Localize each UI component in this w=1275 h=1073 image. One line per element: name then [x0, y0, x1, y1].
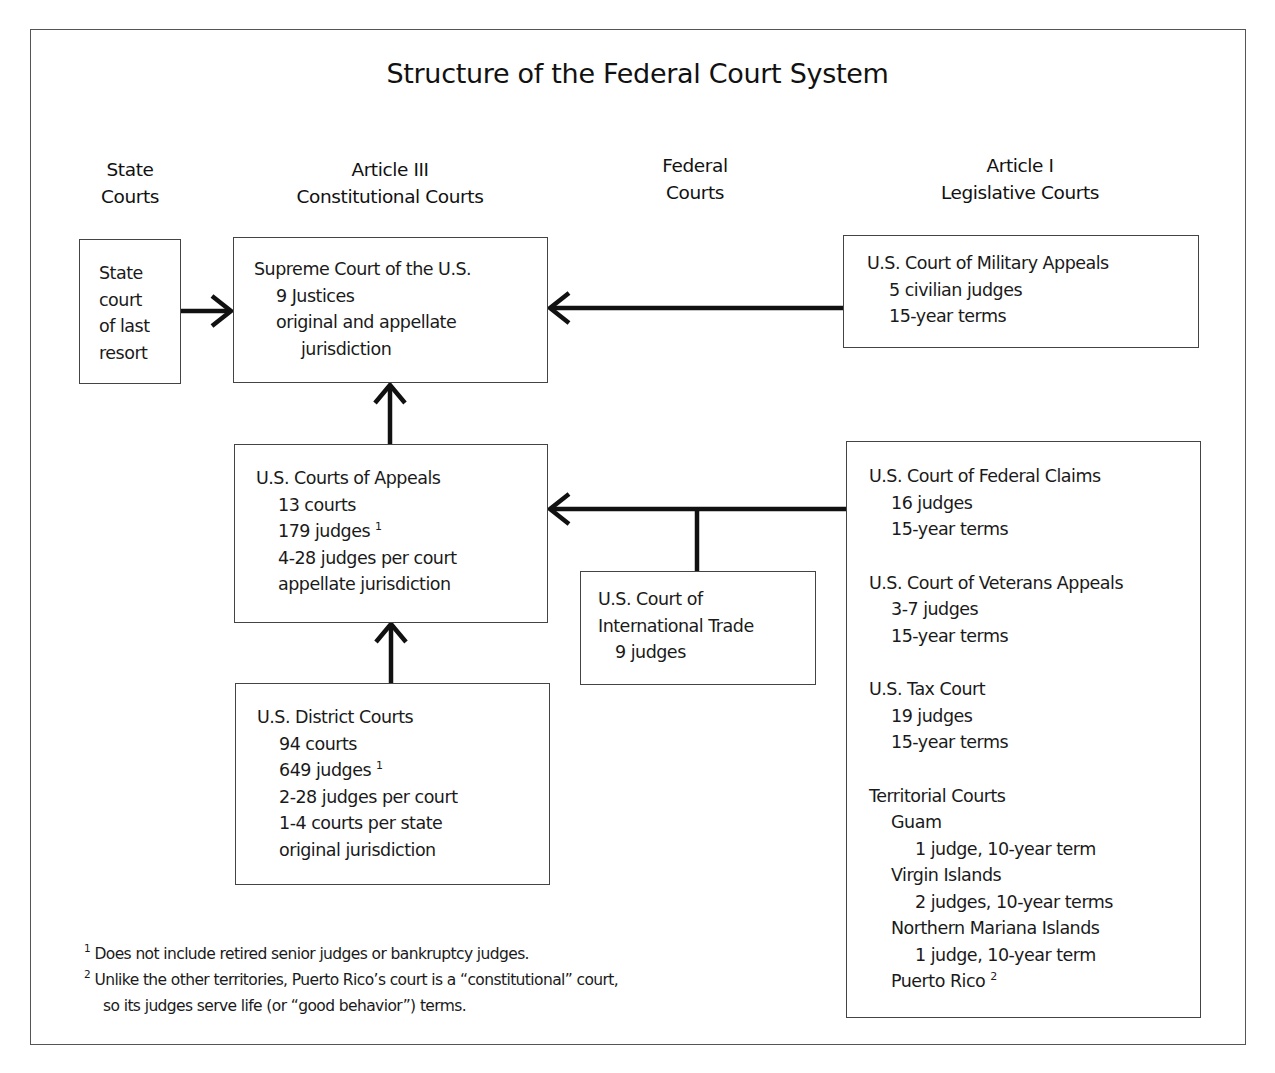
footnote-marker: 1 [84, 942, 90, 954]
court-name: Territorial Courts [869, 783, 1200, 810]
territory-detail: 1 judge, 10-year term [869, 836, 1200, 863]
court-detail: original jurisdiction [257, 837, 549, 864]
box-line: court [99, 287, 180, 314]
veterans-appeals-section: U.S. Court of Veterans Appeals 3-7 judge… [869, 570, 1200, 650]
footnote-2: 2 Unlike the other territories, Puerto R… [84, 967, 618, 993]
footnotes: 1 Does not include retired senior judges… [84, 941, 618, 1019]
federal-claims-section: U.S. Court of Federal Claims 16 judges 1… [869, 463, 1200, 543]
court-detail: 15-year terms [869, 729, 1200, 756]
court-name: U.S. District Courts [257, 704, 549, 731]
international-trade-box: U.S. Court of International Trade 9 judg… [580, 571, 816, 685]
box-line: of last [99, 313, 180, 340]
court-detail: jurisdiction [254, 336, 547, 363]
tax-court-section: U.S. Tax Court 19 judges 15-year terms [869, 676, 1200, 756]
territory-name: Northern Mariana Islands [869, 915, 1200, 942]
court-name: International Trade [598, 613, 815, 640]
judges-count: 179 judges [278, 521, 370, 541]
court-detail: 9 Justices [254, 283, 547, 310]
box-line: resort [99, 340, 180, 367]
territory-label: Puerto Rico [891, 971, 985, 991]
court-detail: 179 judges 1 [256, 518, 547, 545]
territory-name: Guam [869, 809, 1200, 836]
court-detail: 15-year terms [869, 516, 1200, 543]
territory-detail: 1 judge, 10-year term [869, 942, 1200, 969]
court-name: Supreme Court of the U.S. [254, 256, 547, 283]
court-detail: 16 judges [869, 490, 1200, 517]
state-court-box: State court of last resort [79, 239, 181, 384]
court-detail: 13 courts [256, 492, 547, 519]
court-detail: 649 judges 1 [257, 757, 549, 784]
footnote-text-continued: so its judges serve life (or “good behav… [84, 993, 618, 1019]
court-detail: appellate jurisdiction [256, 571, 547, 598]
judges-count: 649 judges [279, 760, 371, 780]
military-appeals-box: U.S. Court of Military Appeals 5 civilia… [843, 235, 1199, 348]
box-line: State [99, 260, 180, 287]
legislative-courts-box: U.S. Court of Federal Claims 16 judges 1… [846, 441, 1201, 1018]
territory-name: Puerto Rico 2 [869, 968, 1200, 995]
court-name: U.S. Court of Military Appeals [867, 250, 1198, 277]
court-detail: 1-4 courts per state [257, 810, 549, 837]
court-name: U.S. Courts of Appeals [256, 465, 547, 492]
district-courts-box: U.S. District Courts 94 courts 649 judge… [235, 683, 550, 885]
court-detail: 94 courts [257, 731, 549, 758]
courts-of-appeals-box: U.S. Courts of Appeals 13 courts 179 jud… [234, 444, 548, 623]
footnote-marker: 2 [990, 970, 997, 983]
court-name: U.S. Court of [598, 586, 815, 613]
footnote-marker: 2 [84, 968, 90, 980]
court-detail: 9 judges [598, 639, 815, 666]
spacer [869, 649, 1200, 676]
spacer [869, 756, 1200, 783]
court-detail: original and appellate [254, 309, 547, 336]
court-detail: 15-year terms [867, 303, 1198, 330]
court-name: U.S. Court of Veterans Appeals [869, 570, 1200, 597]
footnote-text: Unlike the other territories, Puerto Ric… [94, 971, 618, 989]
court-name: U.S. Court of Federal Claims [869, 463, 1200, 490]
court-name: U.S. Tax Court [869, 676, 1200, 703]
territory-detail: 2 judges, 10-year terms [869, 889, 1200, 916]
court-detail: 5 civilian judges [867, 277, 1198, 304]
court-detail: 3-7 judges [869, 596, 1200, 623]
footnote-marker: 1 [376, 759, 383, 772]
court-detail: 15-year terms [869, 623, 1200, 650]
territorial-courts-section: Territorial Courts Guam 1 judge, 10-year… [869, 783, 1200, 995]
court-detail: 19 judges [869, 703, 1200, 730]
spacer [869, 543, 1200, 570]
supreme-court-box: Supreme Court of the U.S. 9 Justices ori… [233, 237, 548, 383]
footnote-marker: 1 [375, 520, 382, 533]
court-detail: 4-28 judges per court [256, 545, 547, 572]
court-detail: 2-28 judges per court [257, 784, 549, 811]
territory-name: Virgin Islands [869, 862, 1200, 889]
footnote-1: 1 Does not include retired senior judges… [84, 941, 618, 967]
footnote-text: Does not include retired senior judges o… [94, 945, 529, 963]
